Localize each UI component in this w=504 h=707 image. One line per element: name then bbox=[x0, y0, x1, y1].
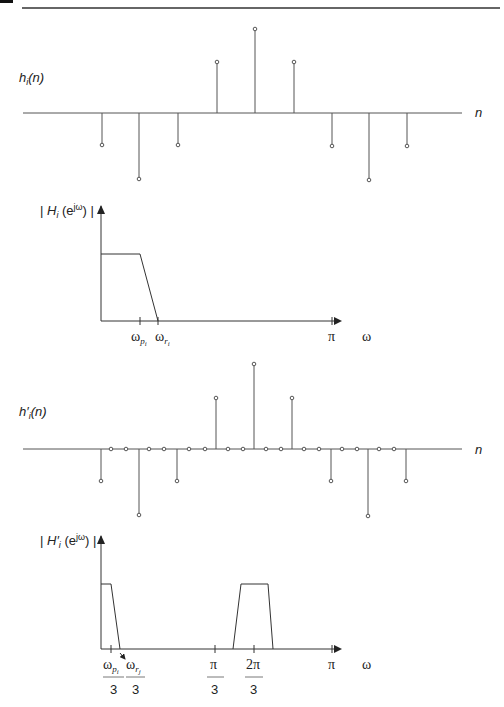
transition-pointer-arrow bbox=[120, 653, 125, 659]
svg-text:3: 3 bbox=[211, 682, 218, 697]
ylabel-mag-H-prime-i: | H′i (ejω) | bbox=[40, 532, 96, 550]
lowpass-response-curve bbox=[101, 254, 158, 321]
svg-text:3: 3 bbox=[250, 682, 257, 697]
ylabel-mag-H-i: | Hi (ejω) | bbox=[40, 202, 94, 220]
tick-omega-r-over-3: ωrj 3 bbox=[126, 657, 145, 697]
svg-text:π: π bbox=[210, 657, 217, 672]
baseband-response-curve bbox=[101, 584, 120, 649]
stems bbox=[99, 362, 408, 518]
figure-canvas: hi(n) n | Hi (ejω) | ωpi ωri π ω bbox=[0, 0, 504, 707]
tick-pi: π bbox=[328, 329, 335, 344]
image-passband-curve bbox=[233, 584, 273, 649]
tick-omega-p-over-3: ωpi 3 bbox=[103, 657, 124, 697]
panel-impulse-response-upsampled: h′i(n) n bbox=[19, 362, 482, 518]
tick-2pi-over-3: 2π 3 bbox=[245, 657, 263, 697]
svg-text:ωpi: ωpi bbox=[103, 657, 119, 676]
stems bbox=[100, 27, 409, 182]
svg-text:3: 3 bbox=[132, 682, 139, 697]
ylabel-h-i-n: hi(n) bbox=[19, 70, 44, 87]
panel-magnitude-response-original: | Hi (ejω) | ωpi ωri π ω bbox=[40, 202, 371, 348]
svg-text:2π: 2π bbox=[246, 657, 260, 672]
xlabel-omega: ω bbox=[362, 329, 371, 344]
tick-pi-over-3: π 3 bbox=[207, 657, 224, 697]
page-corner-mark bbox=[0, 0, 13, 3]
tick-pi: π bbox=[328, 657, 335, 672]
tick-omega-r-i: ωri bbox=[155, 329, 170, 348]
svg-text:ωrj: ωrj bbox=[126, 657, 141, 676]
tick-omega-p-i: ωpi bbox=[131, 329, 147, 348]
svg-text:3: 3 bbox=[110, 682, 117, 697]
ylabel-h-prime-i-n: h′i(n) bbox=[19, 404, 47, 421]
panel-impulse-response-original: hi(n) n bbox=[19, 27, 482, 182]
xlabel-omega: ω bbox=[362, 657, 371, 672]
xlabel-n: n bbox=[475, 105, 482, 120]
panel-magnitude-response-upsampled: | H′i (ejω) | ωpi 3 ωrj 3 π 3 bbox=[40, 532, 371, 697]
xlabel-n: n bbox=[475, 442, 482, 457]
